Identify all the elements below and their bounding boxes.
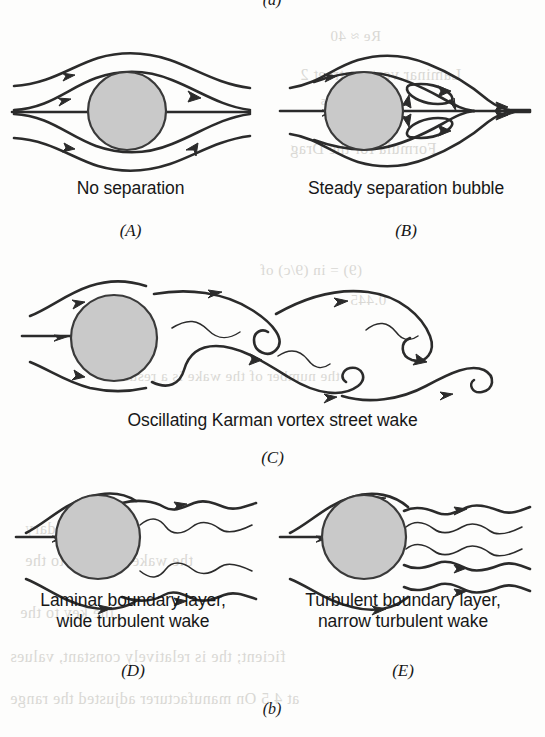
panel-a-letter: (A)	[8, 221, 253, 241]
panel-e-diagram	[278, 475, 536, 593]
panel-c-caption: Oscillating Karman vortex street wake	[30, 410, 515, 431]
panel-b-caption: Steady separation bubble	[272, 178, 540, 199]
group-label-a: (a)	[232, 0, 312, 9]
group-label-b: (b)	[232, 700, 312, 718]
panel-a-caption: No separation	[8, 178, 253, 199]
panel-a-diagram	[10, 40, 255, 185]
cylinder-body-b	[325, 72, 403, 150]
panel-b-letter: (B)	[272, 221, 540, 241]
panel-e-caption: Turbulent boundary layer, narrow turbule…	[272, 590, 534, 632]
cylinder-body-d	[56, 495, 140, 579]
panel-d-caption: Laminar boundary layer, wide turbulent w…	[8, 590, 258, 632]
panel-e-letter: (E)	[272, 661, 534, 681]
panel-b-diagram	[278, 40, 536, 185]
panel-c-diagram	[12, 258, 534, 408]
figure-page: Re ≈ 40Laminar vortex street 21 × 10⁵For…	[0, 0, 545, 737]
panel-c-letter: (C)	[30, 448, 515, 468]
panel-d-letter: (D)	[8, 661, 258, 681]
cylinder-body-e	[322, 495, 406, 579]
cylinder-body-a	[88, 72, 166, 150]
cylinder-body-c	[71, 295, 157, 381]
panel-d-diagram	[14, 475, 264, 593]
